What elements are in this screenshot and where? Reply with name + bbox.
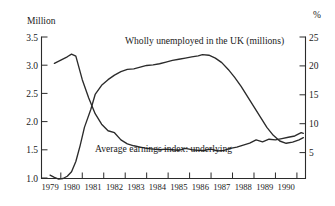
x-axis-tick-label: 1980 [63, 182, 80, 192]
left-axis-ticks [42, 37, 48, 178]
x-axis-tick-label: 1989 [256, 182, 273, 192]
x-axis-tick-label: 1985 [170, 182, 187, 192]
right-tick-label: 25 [309, 33, 319, 43]
left-tick-label: 3.0 [26, 61, 38, 71]
x-axis-tick-label: 1982 [106, 182, 123, 192]
series-line-unemployment [50, 55, 303, 179]
left-tick-label: 1.5 [26, 145, 38, 155]
annotation-unemployment: Wholly unemployed in the UK (millions) [125, 35, 284, 47]
x-axis-tick-label: 1981 [84, 182, 101, 192]
x-axis-ticks [61, 173, 297, 179]
right-tick-label: 10 [309, 119, 319, 129]
right-axis-tick-labels: 25 20 15 10 5 [309, 33, 319, 159]
unemployment-earnings-chart: Million % 3.5 3.0 2.5 2.0 1.5 1.0 [0, 0, 335, 206]
left-axis-tick-labels: 3.5 3.0 2.5 2.0 1.5 1.0 [26, 33, 38, 184]
right-tick-label: 20 [309, 61, 319, 71]
chart-container: Million % 3.5 3.0 2.5 2.0 1.5 1.0 [0, 0, 335, 206]
x-axis-tick-label: 1988 [235, 182, 252, 192]
left-axis-title: Million [27, 16, 56, 26]
left-tick-label: 1.0 [26, 174, 38, 184]
x-axis-tick-labels: 1979198019811982198319841985198619871988… [41, 182, 294, 192]
left-tick-label: 3.5 [26, 33, 38, 43]
plot-frame [42, 37, 306, 179]
x-axis-tick-label: 1986 [192, 182, 210, 192]
x-axis-tick-label: 1990 [278, 182, 295, 192]
series-line-earnings [54, 54, 303, 151]
right-axis-title: % [313, 10, 321, 20]
right-tick-label: 5 [309, 148, 314, 158]
right-tick-label: 15 [309, 90, 319, 100]
x-axis-tick-label: 1984 [149, 182, 167, 192]
right-axis-ticks [300, 37, 306, 153]
left-tick-label: 2.5 [26, 89, 38, 99]
left-tick-label: 2.0 [26, 117, 38, 127]
x-axis-tick-label: 1987 [213, 182, 231, 192]
x-axis-tick-label: 1979 [41, 182, 58, 192]
x-axis-tick-label: 1983 [127, 182, 144, 192]
annotation-earnings: Average earnings index: underlying [95, 143, 232, 154]
